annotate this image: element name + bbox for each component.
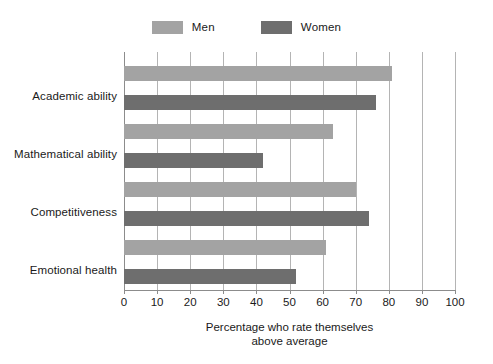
bar-men-competitiveness (124, 182, 356, 197)
x-tick-label-60: 60 (316, 296, 329, 308)
tickmark-30 (223, 290, 224, 294)
x-tick-label-30: 30 (217, 296, 230, 308)
x-tick-label-50: 50 (283, 296, 296, 308)
category-label-emotional-health: Emotional health (30, 264, 117, 276)
legend-entry-women: Women (261, 21, 341, 34)
bar-men-mathematical-ability (124, 124, 333, 139)
tickmark-0 (124, 290, 125, 294)
legend-entry-men: Men (152, 21, 215, 34)
tickmark-70 (356, 290, 357, 294)
tickmark-60 (323, 290, 324, 294)
bar-men-academic-ability (124, 66, 392, 81)
tickmark-20 (190, 290, 191, 294)
x-axis-tick-labels: 0102030405060708090100 (0, 296, 493, 314)
legend-swatch-men (152, 21, 183, 34)
tickmark-40 (256, 290, 257, 294)
category-label-competitiveness: Competitiveness (30, 206, 117, 218)
x-tick-label-100: 100 (445, 296, 464, 308)
legend-label-men: Men (192, 21, 215, 33)
x-tick-label-40: 40 (250, 296, 263, 308)
x-tick-label-90: 90 (415, 296, 428, 308)
legend-label-women: Women (301, 21, 341, 33)
x-axis-title-line2: above average (124, 334, 455, 348)
category-axis-labels: Academic ability Mathematical ability Co… (0, 52, 117, 290)
x-tick-label-70: 70 (349, 296, 362, 308)
bar-women-mathematical-ability (124, 153, 263, 168)
bar-women-academic-ability (124, 95, 376, 110)
bar-chart: Men Women Academic ability Mathematical … (0, 0, 493, 364)
plot-area (124, 52, 455, 290)
chart-legend: Men Women (0, 16, 493, 38)
x-tick-label-20: 20 (184, 296, 197, 308)
category-label-academic-ability: Academic ability (32, 90, 117, 102)
x-axis-title: Percentage who rate themselves above ave… (124, 320, 455, 348)
category-label-mathematical-ability: Mathematical ability (14, 148, 117, 160)
tickmark-80 (389, 290, 390, 294)
bar-women-competitiveness (124, 211, 369, 226)
tickmark-90 (422, 290, 423, 294)
x-tick-label-0: 0 (121, 296, 127, 308)
x-tick-label-10: 10 (151, 296, 164, 308)
gridline-100 (455, 52, 456, 290)
tickmark-100 (455, 290, 456, 294)
x-tick-label-80: 80 (382, 296, 395, 308)
bar-men-emotional-health (124, 240, 326, 255)
gridline-80 (389, 52, 390, 290)
tickmark-10 (157, 290, 158, 294)
gridline-90 (422, 52, 423, 290)
legend-swatch-women (261, 21, 292, 34)
bar-women-emotional-health (124, 269, 296, 284)
gridline-70 (356, 52, 357, 290)
tickmark-50 (290, 290, 291, 294)
x-axis-title-line1: Percentage who rate themselves (124, 320, 455, 334)
